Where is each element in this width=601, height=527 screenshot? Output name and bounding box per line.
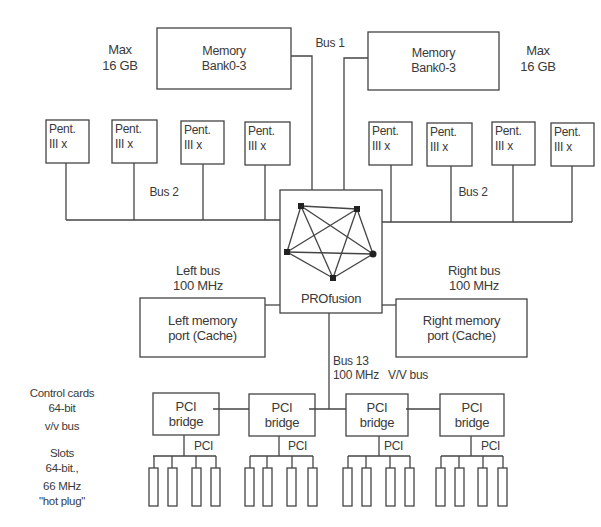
cpu-label: Pent. (248, 124, 275, 139)
bus2-left-label: Bus 2 (144, 185, 184, 199)
max-line1: Max (95, 42, 145, 58)
cpu-right-1: Pent.III x (369, 124, 399, 154)
bus13-extra: V/V bus (388, 368, 428, 382)
profusion-label: PROfusion (280, 292, 382, 306)
cpu-label: III x (430, 140, 457, 155)
cpu-right-4: Pent.III x (551, 125, 581, 155)
max-line1: Max (513, 43, 563, 59)
pci-bridge-line2: bridge (455, 415, 489, 430)
left-memory-port: Left memory port (Cache) (140, 298, 265, 357)
max-line2: 16 GB (513, 59, 563, 75)
cpu-label: III x (49, 137, 76, 152)
pci-slots-3 (343, 436, 414, 506)
pci-bridge-line2: bridge (265, 415, 299, 430)
pci-bridge-line2: bridge (169, 414, 203, 429)
cpu-label: III x (372, 139, 399, 154)
cpu-label: Pent. (184, 123, 211, 138)
cpu-label: III x (495, 139, 522, 154)
right-port-line1: Right memory (423, 313, 500, 328)
bus1-left-line (291, 56, 312, 190)
pci-bus-label-4: PCI (481, 439, 500, 453)
cpu-label: Pent. (495, 124, 522, 139)
left-port-line1: Left memory (168, 313, 237, 328)
left-bus-line1: Left bus (158, 263, 238, 278)
control-cards-note: Control cards 64-bit v/v bus (22, 386, 102, 434)
cpu-label: III x (554, 140, 581, 155)
note-line: "hot plug" (22, 494, 102, 509)
cpu-left-1: Pent.III x (46, 122, 76, 152)
pci-bridge-line1: PCI (367, 400, 388, 415)
right-memory-port: Right memory port (Cache) (396, 299, 527, 357)
memory-bank-left-line1: Memory (202, 44, 245, 59)
right-bus-line1: Right bus (434, 263, 514, 278)
bus13-label: Bus 13 100 MHz V/V bus (333, 354, 428, 382)
left-bus-label: Left bus 100 MHz (158, 263, 238, 293)
cpu-right-2: Pent.III x (427, 125, 457, 155)
bus13-line1: Bus 13 (333, 354, 428, 368)
cpu-label: Pent. (372, 124, 399, 139)
left-bus-line2: 100 MHz (158, 278, 238, 293)
note-line: 64-bit (22, 401, 102, 416)
note-line: 64-bit., (22, 461, 102, 476)
memory-bank-right: Memory Bank0-3 (368, 32, 499, 90)
note-line: 66 MHz (22, 479, 102, 494)
pci-bridge-line1: PCI (462, 400, 483, 415)
pci-bridge-2: PCIbridge (249, 394, 315, 436)
cpu-label: Pent. (115, 122, 142, 137)
memory-left-max-label: Max 16 GB (95, 42, 145, 74)
bus1-right-line (344, 58, 368, 190)
note-line: Slots (22, 446, 102, 461)
cpu-label: Pent. (49, 122, 76, 137)
cpu-right-3: Pent.III x (492, 124, 522, 154)
cpu-label: III x (184, 138, 211, 153)
bus2-right-label: Bus 2 (453, 185, 493, 199)
pci-bus-label-1: PCI (194, 439, 213, 453)
right-bus-line2: 100 MHz (434, 278, 514, 293)
cpu-left-3: Pent.III x (181, 123, 211, 153)
memory-bank-right-line1: Memory (412, 46, 455, 61)
pci-bus-label-3: PCI (384, 439, 403, 453)
note-line: Control cards (22, 386, 102, 401)
cpu-label: Pent. (554, 125, 581, 140)
bus1-label: Bus 1 (310, 36, 350, 50)
slots-note: Slots 64-bit., 66 MHz "hot plug" (22, 446, 102, 509)
pci-bus-label-2: PCI (288, 439, 307, 453)
right-port-line2: port (Cache) (427, 328, 496, 343)
memory-right-max-label: Max 16 GB (513, 43, 563, 75)
max-line2: 16 GB (95, 58, 145, 74)
cpu-left-2: Pent.III x (112, 122, 142, 152)
cpu-label: III x (248, 139, 275, 154)
pci-bridge-line1: PCI (272, 400, 293, 415)
left-port-line2: port (Cache) (168, 328, 237, 343)
bus13-line2: 100 MHz (333, 368, 379, 382)
cpu-left-4: Pent.III x (245, 124, 275, 154)
pci-bridge-3: PCIbridge (346, 394, 408, 436)
cpu-label: Pent. (430, 125, 457, 140)
cpu-label: III x (115, 137, 142, 152)
memory-bank-left-line2: Bank0-3 (202, 59, 246, 74)
crossbar-graph (284, 203, 377, 281)
memory-bank-left: Memory Bank0-3 (157, 28, 291, 89)
right-bus-label: Right bus 100 MHz (434, 263, 514, 293)
note-line: v/v bus (22, 419, 102, 434)
pci-bridge-1: PCIbridge (153, 393, 219, 435)
memory-bank-right-line2: Bank0-3 (411, 61, 455, 76)
pci-bridge-line1: PCI (176, 399, 197, 414)
pci-bridge-4: PCIbridge (440, 394, 504, 436)
pci-bridge-line2: bridge (360, 415, 394, 430)
